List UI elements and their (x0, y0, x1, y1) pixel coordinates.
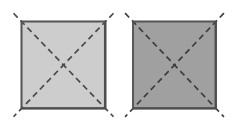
figure-root (0, 0, 232, 122)
right-panel (125, 13, 224, 117)
figure-canvas (0, 0, 232, 122)
left-panel (14, 13, 114, 117)
